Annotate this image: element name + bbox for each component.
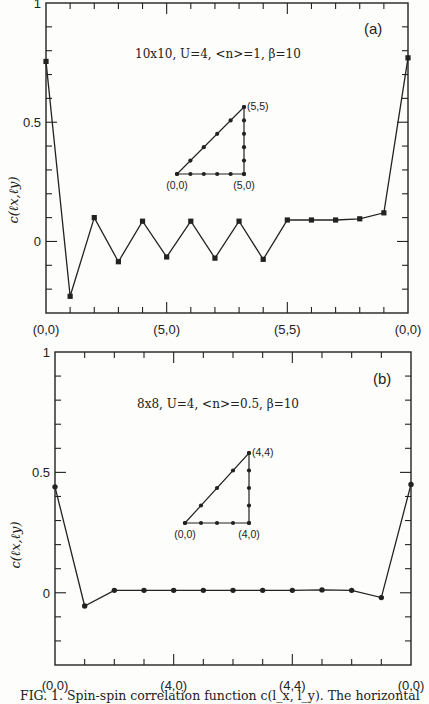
inset-point [229,118,233,122]
data-point [140,219,145,224]
x-tick-label: (5,0) [153,322,180,337]
data-point [333,217,338,222]
inset-label-origin: (0,0) [166,179,188,191]
inset-point [199,521,203,525]
inset-point [229,172,233,176]
inset-path-diagram: (0,0)(5,0)(5,5) [166,100,268,191]
data-point [381,210,386,215]
inset-point [247,486,251,490]
figure-caption: FIG. 1. Spin-spin correlation function c… [20,688,429,703]
data-point [92,215,97,220]
inset-point [183,521,187,525]
data-point [260,588,265,593]
y-tick-label: 1 [34,0,41,11]
y-axis-label: c(ℓx,ℓy) [8,521,23,568]
data-point [230,588,235,593]
inset-point [247,451,251,455]
y-axis-label: c(ℓx,ℓy) [6,176,21,223]
x-tick-label: (0,0) [395,322,422,337]
inset-label-corner: (4,0) [238,528,260,540]
inset-point [242,172,246,176]
panel-parameters: 8x8, U=4, <n>=0.5, β=10 [137,397,299,411]
inset-point [242,145,246,149]
panel-label: (a) [364,20,382,37]
data-point [405,55,410,60]
data-point [141,588,146,593]
data-point [171,588,176,593]
inset-label-diagonal: (4,4) [252,446,274,458]
chart-panel-a: 00.51(0,0)(5,0)(5,5)(0,0)c(ℓx,ℓy)10x10, … [6,0,421,337]
y-tick-label: 0.5 [23,115,41,130]
data-point [357,216,362,221]
inset-label-diagonal: (5,5) [247,100,269,112]
y-tick-label: 0.5 [32,465,50,480]
inset-point [202,145,206,149]
inset-point [215,132,219,136]
data-point [68,294,73,299]
data-point [116,259,121,264]
inset-point [242,132,246,136]
data-point [188,219,193,224]
inset-point [215,172,219,176]
inset-point [199,503,203,507]
data-point [201,588,206,593]
inset-point [247,468,251,472]
y-tick-label: 0 [34,234,41,249]
data-point [349,588,354,593]
data-point [319,587,324,592]
data-point [43,59,48,64]
inset-label-origin: (0,0) [174,528,196,540]
chart-panel-b: 00.51(0,0)(4,0)(4,4)(0,0)c(ℓx,ℓy)8x8, U=… [8,345,424,693]
data-point [52,484,57,489]
data-line [46,58,408,296]
panel-label: (b) [373,370,391,387]
data-point [236,219,241,224]
data-point [379,595,384,600]
inset-label-corner: (5,0) [233,179,255,191]
inset-point [231,521,235,525]
inset-point [188,172,192,176]
data-point [408,482,413,487]
data-point [164,254,169,259]
x-tick-label: (0,0) [33,322,60,337]
data-point [82,603,87,608]
inset-point [215,486,219,490]
inset-point [247,521,251,525]
inset-point [242,118,246,122]
inset-point [247,503,251,507]
data-point [112,588,117,593]
figure-canvas: 00.51(0,0)(5,0)(5,5)(0,0)c(ℓx,ℓy)10x10, … [0,0,429,704]
inset-point [242,105,246,109]
panel-parameters: 10x10, U=4, <n>=1, β=10 [135,47,301,61]
data-point [261,257,266,262]
inset-path-diagram: (0,0)(4,0)(4,4) [174,446,273,540]
y-tick-label: 1 [43,345,50,360]
y-tick-label: 0 [43,586,50,601]
inset-point [231,468,235,472]
inset-point [202,172,206,176]
data-point [285,217,290,222]
data-point [309,217,314,222]
inset-point [242,159,246,163]
inset-point [175,172,179,176]
inset-point [215,521,219,525]
data-point [290,588,295,593]
data-point [212,256,217,261]
inset-point [188,159,192,163]
x-tick-label: (5,5) [274,322,301,337]
inset-triangle [177,107,244,174]
